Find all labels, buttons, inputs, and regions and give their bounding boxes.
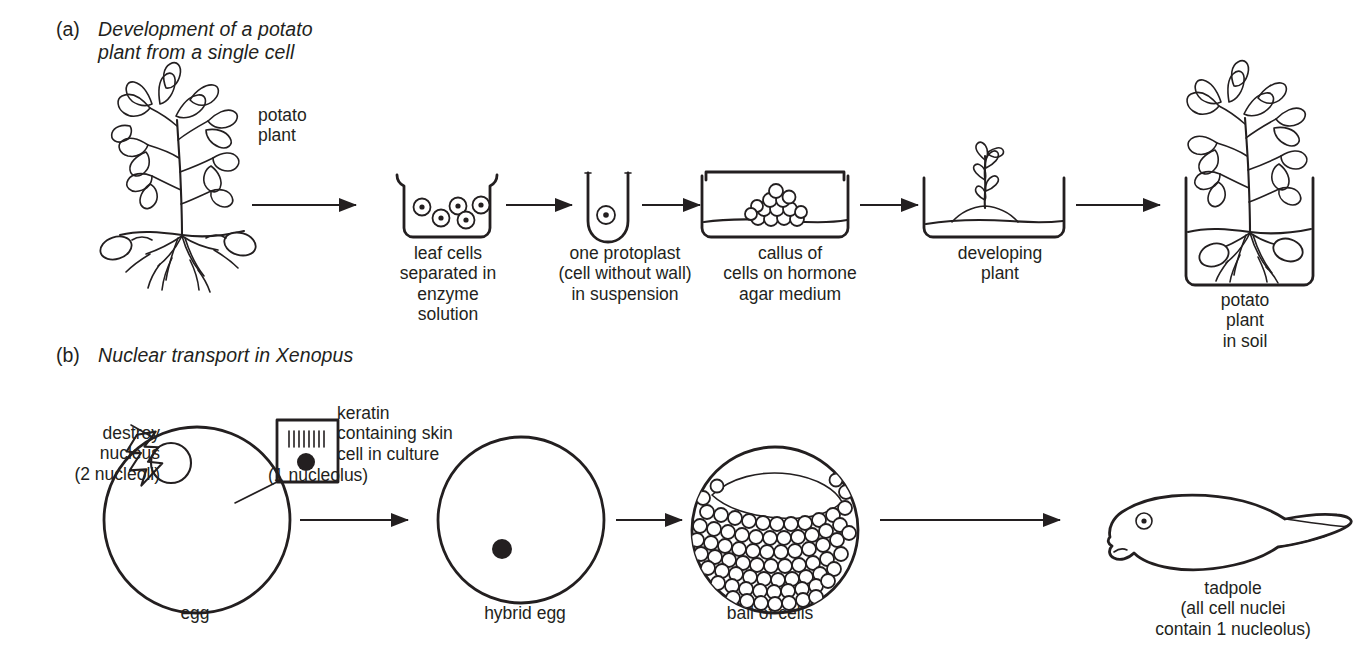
panel-a-title: Development of a potato plant from a sin…	[98, 18, 313, 64]
label-tadpole: tadpole (all cell nuclei contain 1 nucle…	[1118, 578, 1348, 639]
label-keratin-cell: keratin containing skin cell in culture	[337, 403, 507, 464]
tadpole-icon	[1108, 495, 1351, 569]
figure-artwork	[0, 0, 1367, 658]
label-destroy-nucleus: destroy nucleus (2 nucleoli)	[8, 423, 160, 484]
label-developing-plant: developing plant	[920, 243, 1080, 284]
potato-plant-icon	[97, 63, 258, 292]
label-one-nucleolus: (1 nucleolus)	[268, 465, 368, 485]
label-potato-plant: potato plant	[258, 105, 307, 146]
label-potato-plant-in-soil: potato plant in soil	[1180, 290, 1310, 351]
label-hybrid-egg: hybrid egg	[455, 603, 595, 623]
ball-of-cells-icon	[690, 447, 858, 613]
callus-dish-icon	[702, 172, 848, 237]
label-callus: callus of cells on hormone agar medium	[690, 243, 890, 304]
panel-b-title: Nuclear transport in Xenopus	[98, 344, 353, 367]
test-tube-icon	[585, 173, 631, 242]
panel-b-tag: (b)	[56, 344, 80, 367]
pot-plant-icon	[1186, 61, 1313, 285]
label-ball-of-cells: ball of cells	[690, 603, 850, 623]
label-egg: egg	[155, 603, 235, 623]
panel-a-tag: (a)	[56, 18, 80, 41]
figure-canvas: (a) Development of a potato plant from a…	[0, 0, 1367, 658]
plantlet-dish-icon	[924, 142, 1064, 237]
label-leaf-cells: leaf cells separated in enzyme solution	[368, 243, 528, 325]
petri-dish-icon	[397, 175, 497, 237]
